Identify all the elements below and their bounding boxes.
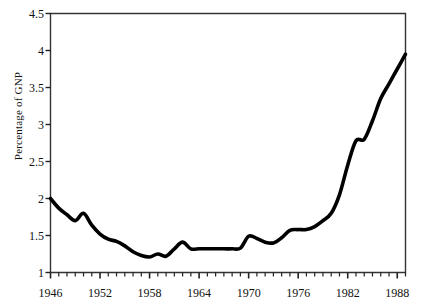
chart-figure: 11.522.533.544.5 19461952195819641970197… [0, 0, 422, 307]
x-axis-tick-label: 1976 [286, 287, 310, 299]
x-axis-tick-label: 1952 [88, 287, 112, 299]
x-axis-tick-label: 1958 [138, 287, 162, 299]
x-axis-tick-label: 1988 [385, 287, 409, 299]
x-axis-tick-label: 1964 [187, 287, 211, 299]
y-axis-title: Percentage of GNP [12, 36, 24, 196]
x-axis-tick-label: 1946 [39, 287, 63, 299]
x-axis-tick-label: 1970 [237, 287, 261, 299]
x-axis-tick-labels: 19461952195819641970197619821988 [0, 0, 422, 307]
x-axis-tick-label: 1982 [336, 287, 360, 299]
